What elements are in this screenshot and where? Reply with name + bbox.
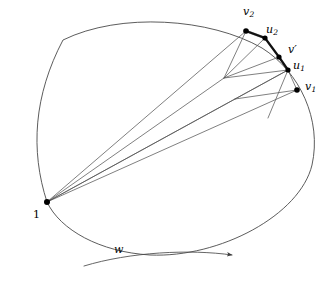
point-v1 (294, 87, 300, 93)
label-w: w (114, 244, 123, 255)
edge-u1-to-inner-b (235, 70, 288, 99)
label-v-prime: v′ (288, 44, 297, 55)
label-v1-subscript: 1 (311, 85, 316, 94)
base-vertex-1 (44, 199, 50, 205)
edge-1-to-inner-b (47, 99, 235, 202)
label-u1: u1 (293, 60, 305, 73)
orientation-arrow-w (84, 252, 232, 266)
edge-1-to-v2 (47, 31, 246, 202)
point-u1 (285, 67, 290, 72)
label-u2-subscript: 2 (273, 28, 278, 37)
diagram-canvas (0, 0, 333, 281)
inner-edges-group (224, 31, 297, 118)
fan-edges-group (47, 31, 297, 202)
edge-1-to-v1 (47, 90, 297, 202)
label-v2-subscript: 2 (249, 10, 254, 19)
label-u1-subscript: 1 (300, 64, 305, 73)
label-v1: v1 (305, 81, 316, 94)
edge-1-to-inner-a (47, 78, 224, 202)
point-v2 (243, 28, 249, 34)
closed-curve-boundary (37, 22, 314, 255)
label-v2: v2 (243, 6, 254, 19)
label-u2: u2 (266, 24, 278, 37)
edge-u1-to-v1 (288, 70, 297, 90)
point-v-prime (276, 54, 281, 59)
marked-points-group (44, 28, 300, 205)
label-v-prime-mark: ′ (294, 43, 297, 56)
label-base-vertex-1: 1 (33, 209, 40, 220)
edge-u2-to-inner-a (224, 38, 265, 78)
figure-root: 1 v2 u2 v′ u1 v1 w (0, 0, 333, 281)
